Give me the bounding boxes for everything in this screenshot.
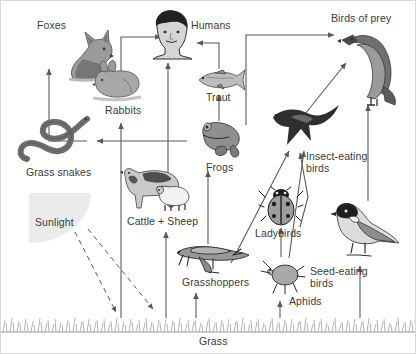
label-trout: Trout	[206, 91, 231, 103]
label-grass: Grass	[199, 335, 228, 347]
flow-sunlight-to-grass	[75, 229, 153, 312]
cow-sheep-icon	[113, 161, 195, 215]
label-humans: Humans	[191, 19, 231, 31]
label-sunlight: Sunlight	[35, 216, 74, 228]
eagle-icon	[337, 27, 405, 109]
label-ladybirds: Ladybirds	[255, 227, 301, 239]
label-grass-snakes: Grass snakes	[26, 166, 91, 178]
label-foxes: Foxes	[37, 19, 66, 31]
label-birds-of-prey: Birds of prey	[331, 12, 391, 24]
label-rabbits: Rabbits	[105, 104, 141, 116]
frog-icon	[195, 117, 247, 161]
grass-icon	[1, 315, 416, 333]
label-aphids: Aphids	[289, 295, 322, 307]
swallow-icon	[267, 101, 345, 149]
human-head-icon	[149, 9, 195, 59]
label-insect-eating-birds: Insect-eating birds	[306, 150, 368, 174]
label-seed-eating-birds: Seed-eating birds	[310, 265, 370, 289]
label-cattle-sheep: Cattle + Sheep	[127, 215, 198, 227]
flow-trout-to-humans	[197, 43, 219, 69]
aphid-icon	[261, 257, 305, 295]
label-frogs: Frogs	[206, 161, 233, 173]
tit-bird-icon	[327, 199, 401, 261]
ladybird-icon	[259, 187, 303, 227]
rabbit-icon	[89, 59, 145, 103]
label-grasshoppers: Grasshoppers	[182, 276, 249, 288]
food-web-diagram: Foxes Humans Birds of prey Rabbits Trout…	[0, 0, 416, 354]
snake-icon	[15, 113, 95, 165]
trout-icon	[193, 67, 251, 93]
grasshopper-icon	[169, 239, 251, 275]
